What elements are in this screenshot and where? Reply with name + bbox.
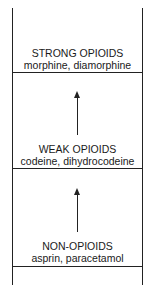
step-examples: codeine, dihydrocodeine bbox=[12, 155, 143, 167]
step-strong-opioids: STRONG OPIOIDS morphine, diamorphine bbox=[12, 47, 143, 71]
step-title: WEAK OPIOIDS bbox=[12, 143, 143, 155]
step-non-opioids: NON-OPIOIDS asprin, paracetamol bbox=[12, 240, 143, 264]
step-title: STRONG OPIOIDS bbox=[12, 47, 143, 59]
step-divider bbox=[12, 266, 143, 267]
step-divider bbox=[12, 168, 143, 169]
step-title: NON-OPIOIDS bbox=[12, 240, 143, 252]
step-examples: asprin, paracetamol bbox=[12, 252, 143, 264]
step-weak-opioids: WEAK OPIOIDS codeine, dihydrocodeine bbox=[12, 143, 143, 167]
step-examples: morphine, diamorphine bbox=[12, 59, 143, 71]
step-divider bbox=[12, 72, 143, 73]
arrow-shaft bbox=[77, 194, 78, 232]
arrow-shaft bbox=[77, 97, 78, 135]
